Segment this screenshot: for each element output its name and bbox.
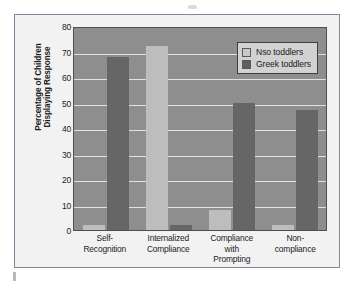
y-axis-tick-60: 60: [45, 73, 71, 83]
bar-nso-2[interactable]: [146, 46, 168, 230]
bar-nso-1[interactable]: [83, 225, 105, 230]
x-axis-tick-labels: Self-RecognitionInternalizedComplianceCo…: [73, 233, 327, 265]
y-axis-title-line-1: Percentage of Children: [34, 43, 43, 130]
x-axis-label-4: Non-compliance: [264, 233, 328, 265]
y-axis-tick-10: 10: [45, 201, 71, 211]
bar-chart-figure: Percentage of Children Displaying Respon…: [14, 14, 340, 268]
y-axis-tick-70: 70: [45, 48, 71, 58]
bar-group-2: [137, 28, 200, 230]
scan-artifact-top: [188, 5, 197, 9]
x-axis-label-1: Self-Recognition: [73, 233, 137, 265]
y-axis-tick-0: 0: [45, 226, 71, 236]
y-axis-tick-40: 40: [45, 124, 71, 134]
bar-nso-4[interactable]: [272, 225, 294, 230]
legend-swatch-nso-icon: [242, 48, 251, 57]
x-axis-label-3: CompliancewithPrompting: [200, 233, 264, 265]
y-axis-tick-labels: 01020304050607080: [45, 27, 71, 231]
bar-greek-4[interactable]: [296, 110, 318, 230]
bar-greek-2[interactable]: [170, 225, 192, 230]
legend-item-nso: Nso toddlers: [242, 46, 311, 58]
y-axis-tick-50: 50: [45, 99, 71, 109]
bar-nso-3[interactable]: [209, 210, 231, 230]
bar-greek-1[interactable]: [107, 57, 129, 230]
bar-group-1: [74, 28, 137, 230]
plot-area: Nso toddlers Greek toddlers: [73, 27, 327, 231]
legend-label-nso: Nso toddlers: [256, 47, 303, 57]
y-axis-tick-80: 80: [45, 22, 71, 32]
legend-swatch-greek-icon: [242, 60, 251, 69]
scan-artifact-bottom: [13, 272, 16, 281]
legend-label-greek: Greek toddlers: [256, 59, 311, 69]
x-axis-label-2: InternalizedCompliance: [137, 233, 201, 265]
legend-item-greek: Greek toddlers: [242, 58, 311, 70]
bar-greek-3[interactable]: [233, 103, 255, 231]
chart-legend: Nso toddlers Greek toddlers: [237, 42, 318, 74]
y-axis-tick-30: 30: [45, 150, 71, 160]
y-axis-tick-20: 20: [45, 175, 71, 185]
